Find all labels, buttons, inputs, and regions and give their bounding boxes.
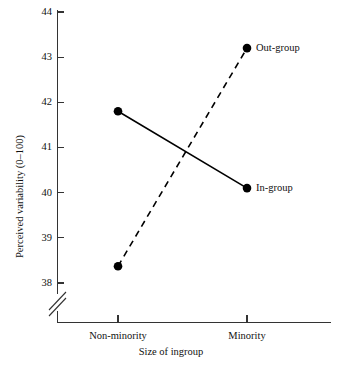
y-tick-label-41: 41 — [22, 142, 52, 153]
y-tick-label-38: 38 — [22, 278, 52, 289]
series-label-ingroup: In-group — [256, 183, 293, 194]
series-line-outgroup — [118, 48, 247, 266]
data-point-outgroup-minority — [243, 44, 252, 53]
y-tick-label-40: 40 — [22, 188, 52, 199]
y-tick-label-42: 42 — [22, 97, 52, 108]
chart-figure: 44 43 42 41 40 39 38 Non-minority Minori… — [0, 0, 342, 368]
y-tick-label-44: 44 — [22, 7, 52, 18]
x-tick-label-non-minority: Non-minority — [89, 331, 147, 342]
data-point-ingroup-minority — [243, 184, 252, 193]
data-point-outgroup-non-minority — [114, 262, 123, 271]
x-axis-title: Size of ingroup — [0, 346, 342, 357]
series-line-ingroup — [118, 111, 247, 188]
x-axis-ticks — [118, 315, 247, 323]
y-tick-label-43: 43 — [22, 52, 52, 63]
y-tick-label-39: 39 — [22, 233, 52, 244]
series-label-outgroup: Out-group — [256, 43, 300, 54]
y-axis-title: Perceived variability (0–100) — [14, 135, 25, 258]
y-axis-ticks — [58, 12, 65, 283]
data-point-ingroup-non-minority — [114, 107, 123, 116]
x-tick-label-minority: Minority — [228, 331, 265, 342]
